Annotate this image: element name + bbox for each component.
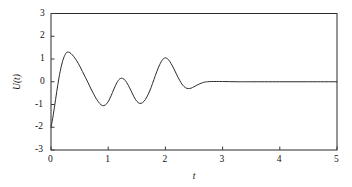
x-tick-label: 0 <box>48 155 53 165</box>
y-tick-label: 2 <box>40 31 45 41</box>
y-tick-label: 0 <box>40 77 45 87</box>
x-tick-label: 3 <box>220 155 225 165</box>
x-tick-label: 5 <box>334 155 339 165</box>
y-tick-label: -2 <box>35 122 43 132</box>
y-tick-label: -1 <box>35 100 43 110</box>
y-tick-label: -3 <box>35 145 43 155</box>
x-axis-label: t <box>193 171 196 181</box>
x-tick-label: 1 <box>105 155 110 165</box>
y-tick-label: 3 <box>40 9 45 19</box>
x-tick-label: 4 <box>277 155 282 165</box>
y-axis-label: U(t) <box>12 74 23 90</box>
y-tick-label: 1 <box>40 54 45 64</box>
figure-container: t U(t) 012345 -3-2-10123 <box>0 0 352 187</box>
x-tick-label: 2 <box>162 155 167 165</box>
